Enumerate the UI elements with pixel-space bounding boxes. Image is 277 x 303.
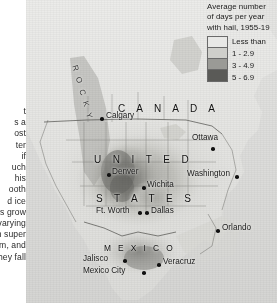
city-dot-ft-worth [138,211,142,215]
body-line: t varying [0,218,26,229]
legend-label-1: 1 - 2.9 [228,48,277,60]
body-line: uch super [0,229,26,240]
city-dot-orlando [216,229,220,233]
body-line: als grow [0,207,26,218]
city-dot-denver [107,173,111,177]
city-dot-calgary [100,117,104,121]
legend-swatch-0 [208,37,227,48]
map-label-denver: Denver [112,167,138,176]
body-line: ost [0,128,26,139]
legend-label-2: 3 - 4.9 [228,60,277,72]
body-line: rs as they fall [0,252,26,263]
map-legend: Average number of days per year with hai… [207,2,277,84]
legend-swatch-stack [207,36,228,82]
city-dot-ottawa [211,147,215,151]
city-dot-mexico-city [142,271,146,275]
legend-items: Less than 1 - 2.9 3 - 4.9 5 - 6.9 [207,36,277,84]
map-label-calgary: Calgary [106,111,134,120]
city-dot-veracruz [157,263,161,267]
map-figure: t s a ost ter if uch his ooth d ice als … [0,0,277,303]
city-dot-washington [235,175,239,179]
body-line: his [0,173,26,184]
body-line: d ice [0,196,26,207]
body-line: them, and [0,240,26,251]
legend-swatch-3 [208,70,227,81]
map-label-orlando: Orlando [222,223,251,232]
legend-swatch-1 [208,48,227,59]
map-label-washington: Washington [187,169,230,178]
legend-label-3: 5 - 6.9 [228,72,277,84]
map-label-mexico: M E X I C O [104,243,175,253]
city-dot-dallas [145,211,149,215]
article-body-text: t s a ost ter if uch his ooth d ice als … [0,106,26,263]
legend-swatch-2 [208,59,227,70]
map-label-veracruz: Veracruz [163,257,195,266]
body-line: ter [0,140,26,151]
north-america-map: R O C K Y C A N A D A U N I T E D S T A … [26,0,277,303]
body-line: s a [0,117,26,128]
body-line: t [0,106,26,117]
body-line: if [0,151,26,162]
map-label-states: S T A T E S [96,193,195,204]
map-label-mexico-city: Mexico City [83,266,125,275]
map-label-ft-worth: Ft. Worth [96,206,130,215]
map-label-ottawa: Ottawa [192,133,218,142]
map-label-jalisco: Jalisco [83,254,108,263]
body-line: uch [0,162,26,173]
body-line: ooth [0,184,26,195]
city-dot-jalisco [123,259,127,263]
map-label-dallas: Dallas [151,206,174,215]
legend-title: Average number of days per year with hai… [207,2,277,33]
map-label-wichita: Wichita [147,180,174,189]
map-label-united: U N I T E D [94,154,193,165]
city-dot-wichita [142,186,146,190]
legend-label-0: Less than [228,36,277,48]
